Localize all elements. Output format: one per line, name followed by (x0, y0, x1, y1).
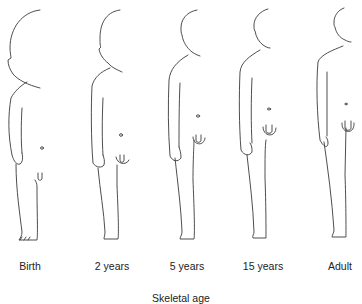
body-proportions-diagram (0, 0, 362, 250)
stage-label-adult: Adult (328, 260, 352, 272)
figure-15-years (239, 9, 276, 238)
figure-2-years (91, 10, 129, 239)
stage-label-birth: Birth (19, 260, 41, 272)
stage-label-15-years: 15 years (243, 260, 283, 272)
figure-birth (8, 10, 44, 240)
figure-adult (317, 8, 354, 237)
stage-label-2-years: 2 years (95, 260, 129, 272)
figure-caption: Skeletal age (152, 292, 210, 304)
stage-label-5-years: 5 years (170, 260, 204, 272)
figure-5-years (168, 10, 205, 239)
